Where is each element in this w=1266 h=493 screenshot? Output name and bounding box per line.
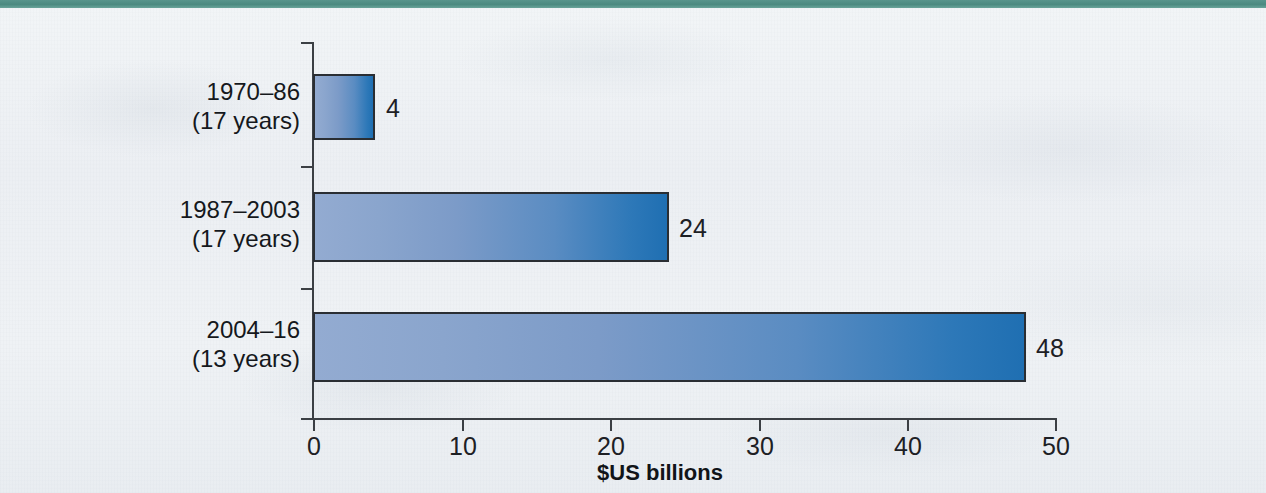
- category-label-0-line2: (17 years): [40, 107, 300, 136]
- bar-1970-86[interactable]: [313, 74, 375, 140]
- bar-value-2: 48: [1036, 334, 1064, 363]
- category-label-2: 2004–16 (13 years): [40, 316, 300, 374]
- x-axis-tick-label-0: 0: [307, 432, 321, 461]
- y-axis-tick-bottom: [301, 418, 313, 420]
- category-label-1: 1987–2003 (17 years): [40, 196, 300, 254]
- category-label-0: 1970–86 (17 years): [40, 78, 300, 136]
- bar-2004-16[interactable]: [313, 312, 1026, 382]
- category-label-2-line1: 2004–16: [40, 316, 300, 345]
- x-axis-line: [313, 418, 1057, 420]
- x-axis-tick-label-50: 50: [1042, 432, 1070, 461]
- category-label-1-line2: (17 years): [40, 225, 300, 254]
- bar-chart-plot: 1970–86 (17 years) 1987–2003 (17 years) …: [0, 0, 1266, 493]
- x-axis-tick-label-30: 30: [746, 432, 774, 461]
- x-axis-title: $US billions: [0, 460, 1266, 486]
- x-axis-tick-label-20: 20: [597, 432, 625, 461]
- y-axis-tick-1: [301, 166, 313, 168]
- category-label-2-line2: (13 years): [40, 345, 300, 374]
- x-axis-title-text: $US billions: [597, 460, 723, 486]
- x-axis-tick-40: [907, 420, 909, 431]
- y-axis-tick-top: [301, 42, 313, 44]
- x-axis-tick-label-40: 40: [894, 432, 922, 461]
- category-label-0-line1: 1970–86: [40, 78, 300, 107]
- category-label-1-line1: 1987–2003: [40, 196, 300, 225]
- bar-value-1: 24: [679, 214, 707, 243]
- x-axis-tick-30: [759, 420, 761, 431]
- y-axis-tick-2: [301, 288, 313, 290]
- bar-value-0: 4: [386, 94, 400, 123]
- bar-1987-2003[interactable]: [313, 192, 669, 262]
- x-axis-tick-0: [313, 420, 315, 431]
- x-axis-tick-label-10: 10: [449, 432, 477, 461]
- x-axis-tick-50: [1055, 420, 1057, 431]
- x-axis-tick-20: [610, 420, 612, 431]
- chart-page: 1970–86 (17 years) 1987–2003 (17 years) …: [0, 0, 1266, 493]
- x-axis-tick-10: [462, 420, 464, 431]
